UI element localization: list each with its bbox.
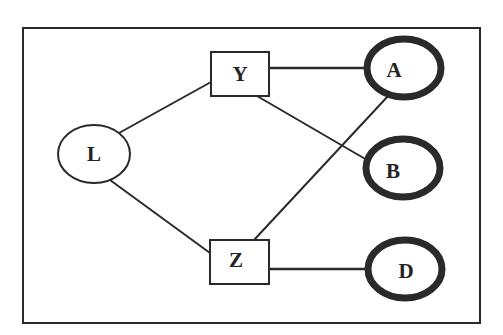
node-L: L [58, 125, 130, 183]
node-A: A [367, 39, 441, 97]
node-B-label: B [386, 159, 400, 183]
node-D-label: D [398, 259, 413, 283]
node-B: B [366, 139, 440, 197]
diagram-canvas: L Y Z A B D [0, 0, 503, 335]
node-A-label: A [386, 58, 402, 82]
edge-Y-B [257, 96, 367, 160]
node-Y: Y [211, 52, 269, 96]
edge-L-Y [119, 82, 211, 133]
node-Y-label: Y [232, 62, 247, 86]
node-Z-label: Z [229, 248, 243, 272]
edge-L-Z [110, 180, 210, 253]
node-L-label: L [87, 142, 101, 166]
node-Z: Z [210, 240, 269, 284]
node-D: D [368, 240, 442, 298]
